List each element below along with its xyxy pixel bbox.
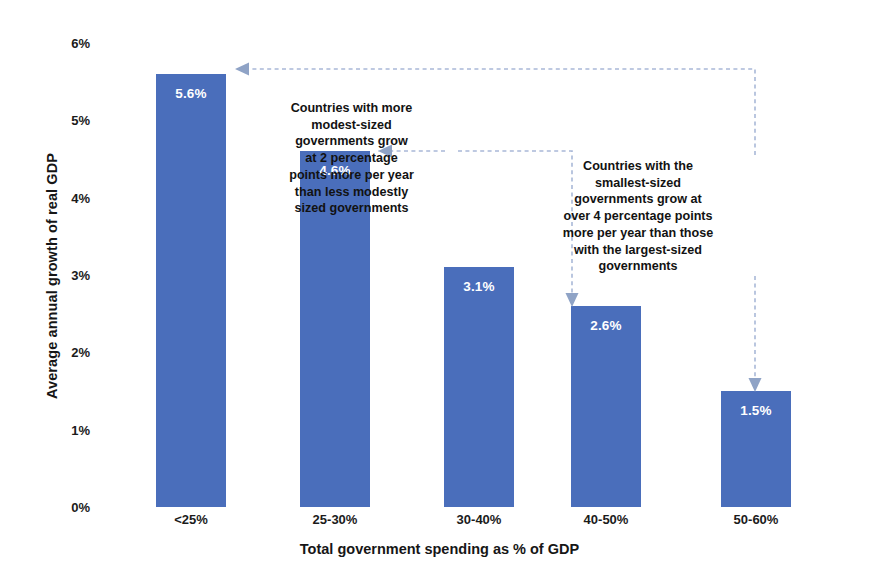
x-tick-label-40-50: 40-50% <box>571 512 641 527</box>
y-tick-label: 2% <box>44 345 90 360</box>
bar-value-label: 1.5% <box>721 403 791 418</box>
x-tick-label-30-40: 30-40% <box>444 512 514 527</box>
y-tick-label: 4% <box>44 191 90 206</box>
x-tick-label-50-60: 50-60% <box>721 512 791 527</box>
annotation-line: at 2 percentage <box>255 150 448 167</box>
y-tick-label: 3% <box>44 268 90 283</box>
y-tick-label: 0% <box>44 500 90 515</box>
annotation-line: Countries with the <box>527 158 749 175</box>
y-tick-label: 1% <box>44 423 90 438</box>
annotation-line: over 4 percentage points <box>527 208 749 225</box>
bar-40-50[interactable]: 2.6% <box>571 306 641 507</box>
y-tick-label: 6% <box>44 36 90 51</box>
y-tick-label: 5% <box>44 113 90 128</box>
annotation-smallest-sized-governments: Countries with the smallest-sized govern… <box>527 158 749 275</box>
annotation-line: smallest-sized <box>527 175 749 192</box>
bar-30-40[interactable]: 3.1% <box>444 267 514 507</box>
annotation-line: with the largest-sized <box>527 242 749 259</box>
annotation-line: governments grow at <box>527 191 749 208</box>
annotation-line: more per year than those <box>527 225 749 242</box>
bar-lt25[interactable]: 5.6% <box>156 74 226 507</box>
x-tick-label-25-30: 25-30% <box>300 512 370 527</box>
annotation-line: Countries with more <box>255 100 448 117</box>
x-tick-label-lt25: <25% <box>156 512 226 527</box>
annotation-line: points more per year <box>255 167 448 184</box>
bar-value-label: 3.1% <box>444 279 514 294</box>
bar-chart: Average annual growth of real GDP 6% 5% … <box>0 0 879 582</box>
annotation-line: sized governments <box>255 200 448 217</box>
x-axis-title: Total government spending as % of GDP <box>0 541 879 557</box>
annotation-line: governments <box>527 258 749 275</box>
annotation-line: governments grow <box>255 133 448 150</box>
bar-value-label: 2.6% <box>571 318 641 333</box>
annotation-modest-sized-governments: Countries with more modest-sized governm… <box>255 100 448 217</box>
bar-50-60[interactable]: 1.5% <box>721 391 791 507</box>
annotation-line: modest-sized <box>255 117 448 134</box>
annotation-line: than less modestly <box>255 184 448 201</box>
y-axis-tick-labels: 6% 5% 4% 3% 2% 1% 0% <box>44 0 90 582</box>
bar-value-label: 5.6% <box>156 86 226 101</box>
plot-area: 5.6% 4.6% 3.1% 2.6% 1.5% <25% 25-30% 30-… <box>110 0 879 582</box>
